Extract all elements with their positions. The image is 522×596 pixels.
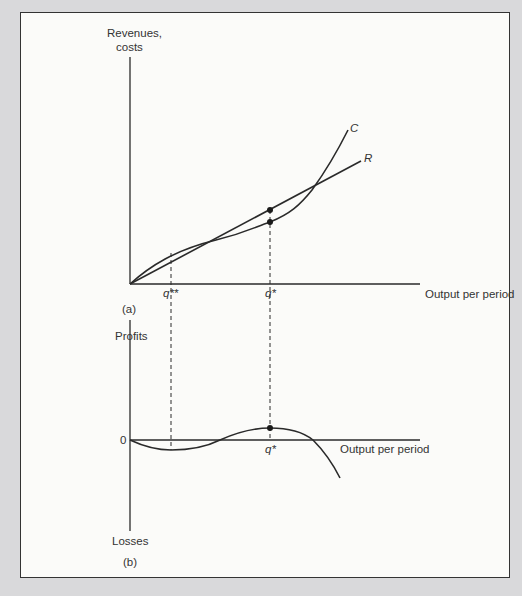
revenue-point-at-q-star: [267, 207, 273, 213]
cost-point-at-q-star: [267, 219, 273, 225]
cost-curve-c: [130, 130, 348, 284]
y-axis-label-losses: Losses: [112, 535, 148, 547]
zero-label: 0: [120, 434, 126, 446]
x-axis-label-a: Output per period: [425, 288, 515, 300]
y-axis-label-profits: Profits: [115, 330, 148, 342]
cost-curve-label: C: [350, 122, 358, 134]
tick-q-star-a: q*: [265, 287, 276, 299]
tick-q-star-b: q*: [265, 443, 276, 455]
revenue-curve-r: [130, 161, 361, 284]
y-axis-label-costs: costs: [116, 41, 143, 53]
revenue-curve-label: R: [364, 152, 372, 164]
max-profit-point: [267, 425, 273, 431]
panel-a-label: (a): [122, 303, 136, 315]
profit-curve: [130, 428, 340, 478]
y-axis-label-revenues: Revenues,: [107, 27, 162, 39]
x-axis-label-b: Output per period: [340, 443, 430, 455]
panel-b-label: (b): [123, 556, 137, 568]
tick-q-double-star: q**: [163, 287, 178, 299]
